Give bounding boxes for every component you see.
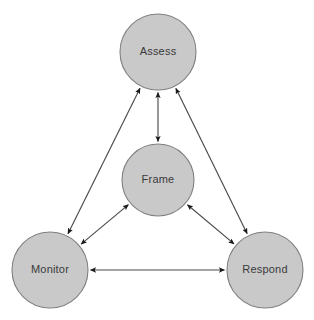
edge-frame-monitor [81, 205, 128, 244]
node-frame[interactable]: Frame [122, 144, 194, 216]
nodes-layer: AssessFrameMonitorRespond [12, 14, 303, 308]
node-label-frame: Frame [142, 173, 175, 185]
node-label-assess: Assess [140, 45, 177, 57]
process-cycle-diagram: AssessFrameMonitorRespond [0, 0, 314, 320]
node-monitor[interactable]: Monitor [12, 232, 88, 308]
node-label-respond: Respond [242, 263, 287, 275]
node-assess[interactable]: Assess [120, 14, 196, 90]
diagram-canvas: AssessFrameMonitorRespond [0, 0, 314, 320]
node-label-monitor: Monitor [31, 263, 69, 275]
node-respond[interactable]: Respond [227, 232, 303, 308]
edge-frame-respond [187, 205, 234, 244]
